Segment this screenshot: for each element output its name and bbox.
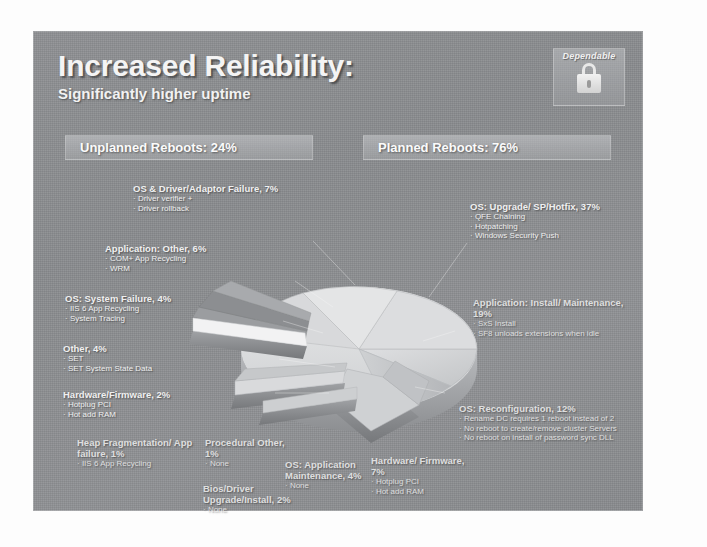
callout-bullet: · Driver rollback	[133, 204, 278, 213]
presentation-slide: Increased Reliability: Significantly hig…	[33, 31, 643, 511]
page-subtitle: Significantly higher uptime	[58, 85, 478, 102]
callout-bullet: · System Tracing	[65, 314, 171, 323]
callout-bullet: · None	[203, 505, 327, 514]
callout-bullet: · Driver verifier +	[133, 194, 278, 203]
callout-bullet: · Rename DC requires 1 reboot instead of…	[459, 414, 635, 423]
callout-os-system-failure: OS: System Failure, 4% · IIS 6 App Recyc…	[65, 293, 171, 323]
section-bar-unplanned-label: Unplanned Reboots: 24%	[80, 140, 237, 155]
callout-bullet: · Hot add RAM	[371, 487, 475, 496]
callout-other: Other, 4% · SET · SET System State Data	[63, 343, 152, 373]
callout-heading: OS: Reconfiguration, 12%	[459, 403, 635, 414]
callout-heading: OS: System Failure, 4%	[65, 293, 171, 304]
callout-bullet: · Windows Security Push	[470, 231, 640, 240]
callout-heading: OS: Upgrade/ SP/Hotfix, 37%	[470, 201, 640, 212]
callout-bullet: · SET	[63, 354, 152, 363]
callout-bullet: · Hotpatching	[470, 222, 640, 231]
callout-bullet: · No reboot on install of password sync …	[459, 433, 635, 442]
callout-bullet: · SF8 unloads extensions when idle	[473, 329, 641, 338]
callout-bullet: · IIS 6 App Recycling	[65, 304, 171, 313]
callout-heading: Heap Fragmentation/ App failure, 1%	[77, 437, 217, 459]
callout-heading: Hardware/ Firmware, 7%	[371, 455, 475, 477]
callout-application-other: Application: Other, 6% · COM+ App Recycl…	[105, 243, 206, 273]
callout-bullet: · IIS 6 App Recycling	[77, 459, 217, 468]
callout-bullet: · Hotplug PCI	[371, 477, 475, 486]
callout-bullet: · Hotplug PCI	[63, 400, 170, 409]
padlock-icon	[576, 63, 602, 95]
callout-bullet: · WRM	[105, 264, 206, 273]
title-block: Increased Reliability: Significantly hig…	[58, 51, 478, 102]
callout-bullet: · No reboot to create/remove cluster Ser…	[459, 424, 635, 433]
callout-application-install-maintenance: Application: Install/ Maintenance, 19% ·…	[473, 297, 641, 338]
callout-os-reconfiguration: OS: Reconfiguration, 12% · Rename DC req…	[459, 403, 635, 443]
callout-heading: OS & Driver/Adaptor Failure, 7%	[133, 183, 278, 194]
page-title: Increased Reliability:	[58, 51, 478, 81]
section-bar-planned-label: Planned Reboots: 76%	[378, 140, 518, 155]
screenshot-canvas: Increased Reliability: Significantly hig…	[0, 0, 707, 547]
callout-bullet: · COM+ App Recycling	[105, 254, 206, 263]
section-bar-planned: Planned Reboots: 76%	[363, 135, 611, 160]
callout-heading: Other, 4%	[63, 343, 152, 354]
callout-bullet: · SxS Install	[473, 319, 641, 328]
badge-label: Dependable	[554, 51, 624, 61]
callout-heading: Procedural Other, 1%	[205, 437, 301, 459]
callout-heading: Hardware/Firmware, 2%	[63, 389, 170, 400]
callout-bullet: · Hot add RAM	[63, 410, 170, 419]
callout-heading: Application: Install/ Maintenance, 19%	[473, 297, 641, 319]
dependable-badge: Dependable	[553, 48, 625, 106]
callout-os-driver-failure: OS & Driver/Adaptor Failure, 7% · Driver…	[133, 183, 278, 213]
section-bar-unplanned: Unplanned Reboots: 24%	[65, 135, 313, 160]
callout-bullet: · QFE Chaining	[470, 212, 640, 221]
callout-hardware-firmware-planned: Hardware/ Firmware, 7% · Hotplug PCI · H…	[371, 455, 475, 496]
callout-hardware-firmware-unplanned: Hardware/Firmware, 2% · Hotplug PCI · Ho…	[63, 389, 170, 419]
callout-heading: Application: Other, 6%	[105, 243, 206, 254]
callout-os-upgrade-hotfix: OS: Upgrade/ SP/Hotfix, 37% · QFE Chaini…	[470, 201, 640, 241]
callout-heap-fragmentation: Heap Fragmentation/ App failure, 1% · II…	[77, 437, 217, 469]
callout-bullet: · SET System State Data	[63, 364, 152, 373]
